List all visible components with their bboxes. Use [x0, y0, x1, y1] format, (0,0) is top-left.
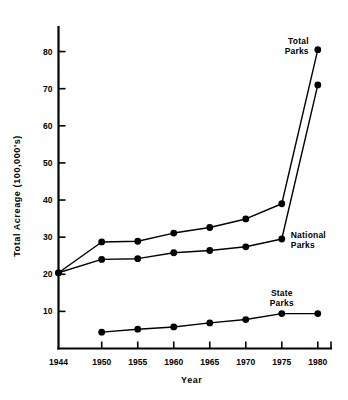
- data-point: [98, 239, 105, 246]
- y-axis-tick-label: 70: [43, 84, 53, 94]
- y-axis-title: Total Acreage (100,000's): [12, 135, 22, 257]
- data-point: [242, 316, 249, 323]
- series-label-total: TotalParks: [285, 36, 309, 56]
- y-axis-tick-label: 40: [43, 195, 53, 205]
- x-axis-tick-label: 1965: [200, 357, 219, 367]
- data-point: [98, 329, 105, 336]
- y-axis-tick-label: 10: [43, 306, 53, 316]
- line-chart: 1020304050607080 19441950195519601965197…: [0, 0, 348, 400]
- x-axis-title: Year: [181, 375, 202, 385]
- y-axis-tick-label: 80: [43, 47, 53, 57]
- data-point: [170, 230, 177, 237]
- data-point: [134, 238, 141, 245]
- data-point: [134, 255, 141, 262]
- data-point: [242, 243, 249, 250]
- data-point: [314, 310, 321, 317]
- data-point: [134, 326, 141, 333]
- y-axis-tick-label: 50: [43, 158, 53, 168]
- data-point: [206, 247, 213, 254]
- x-axis-tick-label: 1970: [236, 357, 255, 367]
- data-point: [206, 319, 213, 326]
- series-label-national: NationalParks: [291, 230, 326, 250]
- x-axis-tick-group: 19441950195519601965197019751980: [49, 342, 331, 367]
- data-point: [278, 236, 285, 243]
- data-point: [206, 224, 213, 231]
- chart-container: 1020304050607080 19441950195519601965197…: [0, 0, 348, 400]
- x-axis-tick-label: 1950: [92, 357, 111, 367]
- data-point: [242, 216, 249, 223]
- x-axis-tick-label: 1960: [164, 357, 183, 367]
- y-axis-tick-label: 60: [43, 121, 53, 131]
- data-point: [55, 269, 62, 276]
- x-axis-tick-label: 1980: [308, 357, 327, 367]
- x-axis-tick-label: 1944: [49, 357, 68, 367]
- x-axis-tick-label: 1975: [272, 357, 291, 367]
- y-axis-tick-label: 20: [43, 269, 53, 279]
- data-point: [98, 256, 105, 263]
- y-axis-tick-group: 1020304050607080: [43, 47, 65, 317]
- data-point: [314, 46, 321, 53]
- y-axis-tick-label: 30: [43, 232, 53, 242]
- series-label-state: StateParks: [270, 288, 294, 308]
- data-point: [314, 82, 321, 89]
- data-point: [278, 200, 285, 207]
- data-point: [170, 324, 177, 331]
- data-point: [170, 249, 177, 256]
- data-point: [278, 310, 285, 317]
- x-axis-tick-label: 1955: [128, 357, 147, 367]
